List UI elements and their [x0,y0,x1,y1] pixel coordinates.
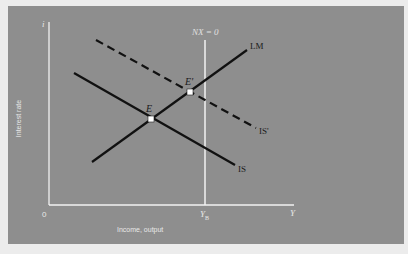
lm-label: LM [250,42,264,51]
y-b-label: YB [200,210,209,221]
is-prime-label: IS' [259,127,269,136]
x-axis-label: Income, output [117,226,163,233]
lm-curve [92,50,247,162]
point-e-label: E [146,104,152,114]
is-label: IS [238,165,246,174]
point-e-marker [148,116,154,122]
point-e-prime-label: E' [185,77,193,87]
x-axis-symbol: Y [290,209,295,218]
y-axis-label: Interest rate [15,89,22,149]
y-b-subscript: B [205,215,209,221]
page: i Interest rate 0 Y Income, output YB NX… [0,0,408,254]
nx-zero-label: NX = 0 [192,28,219,37]
origin-label: 0 [42,211,46,219]
is-prime-curve [96,40,256,128]
is-curve [74,73,235,165]
point-e-prime-marker [187,89,193,95]
y-axis-symbol: i [42,20,45,29]
